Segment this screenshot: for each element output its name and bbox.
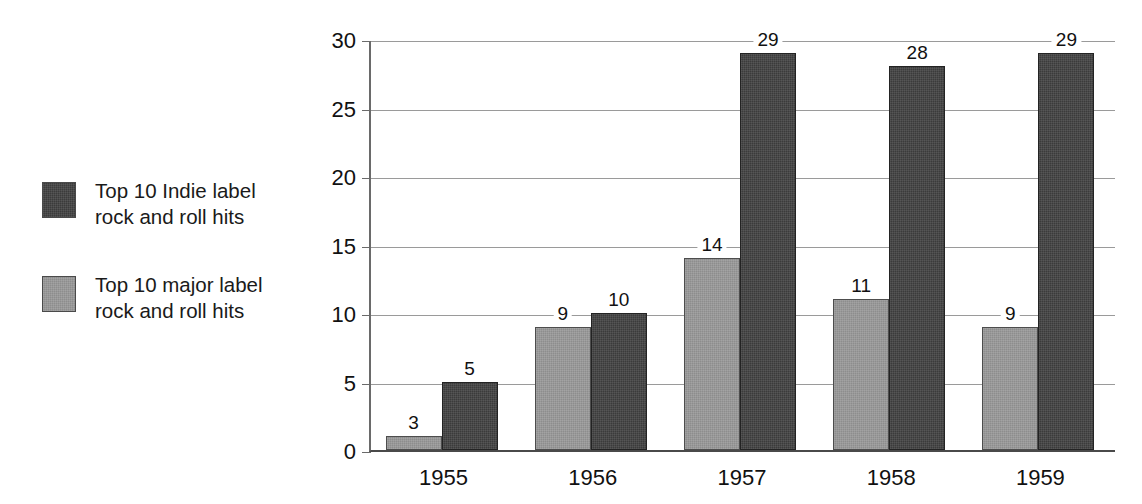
y-tick-label: 15: [300, 234, 356, 260]
legend-item-indie: Top 10 Indie label rock and roll hits: [42, 178, 342, 230]
bar-1955-major: [386, 436, 442, 450]
y-tick-mark: [362, 384, 371, 385]
y-tick-label: 20: [300, 165, 356, 191]
bar-value-label: 11: [847, 275, 875, 297]
y-tick-label: 5: [300, 371, 356, 397]
y-axis: 051015202530: [300, 0, 356, 504]
plot-area: 3591014291128929: [369, 41, 1115, 452]
legend-swatch-major-icon: [42, 276, 76, 312]
x-tick-label-1956: 1956: [568, 465, 617, 491]
x-tick-label-1959: 1959: [1016, 465, 1065, 491]
y-tick-mark: [362, 178, 371, 179]
legend-item-major: Top 10 major label rock and roll hits: [42, 272, 342, 324]
chart-legend: Top 10 Indie label rock and roll hits To…: [42, 178, 342, 366]
bar-value-label: 29: [1052, 29, 1081, 51]
legend-label-indie: Top 10 Indie label rock and roll hits: [95, 178, 256, 230]
bar-1958-indie: [889, 66, 945, 450]
y-tick-mark: [362, 315, 371, 316]
bar-value-label: 9: [554, 303, 573, 325]
y-tick-label: 30: [300, 28, 356, 54]
bar-1957-major: [684, 258, 740, 450]
bar-chart-figure: Top 10 Indie label rock and roll hits To…: [0, 0, 1142, 504]
bar-1957-indie: [740, 53, 796, 450]
bar-value-label: 9: [1001, 303, 1020, 325]
bar-value-label: 14: [697, 234, 726, 256]
legend-swatch-indie-icon: [42, 182, 76, 218]
bar-value-label: 29: [753, 29, 782, 51]
bar-value-label: 3: [404, 412, 423, 434]
y-tick-label: 10: [300, 302, 356, 328]
gridline: [371, 41, 1115, 42]
bar-1955-indie: [442, 382, 498, 451]
legend-label-major: Top 10 major label rock and roll hits: [95, 272, 263, 324]
y-tick-mark: [362, 41, 371, 42]
y-tick-mark: [362, 110, 371, 111]
bar-value-label: 28: [903, 42, 932, 64]
x-tick-label-1958: 1958: [867, 465, 916, 491]
bar-1956-indie: [591, 313, 647, 450]
bar-1959-indie: [1038, 53, 1094, 450]
y-tick-mark: [362, 247, 371, 248]
bar-value-label: 5: [460, 358, 479, 380]
x-tick-label-1957: 1957: [718, 465, 767, 491]
bar-1959-major: [982, 327, 1038, 450]
y-tick-mark: [362, 452, 371, 453]
bar-1956-major: [535, 327, 591, 450]
y-tick-label: 0: [300, 439, 356, 465]
bar-1958-major: [833, 299, 889, 450]
x-tick-label-1955: 1955: [419, 465, 468, 491]
y-tick-label: 25: [300, 97, 356, 123]
bar-value-label: 10: [604, 289, 633, 311]
